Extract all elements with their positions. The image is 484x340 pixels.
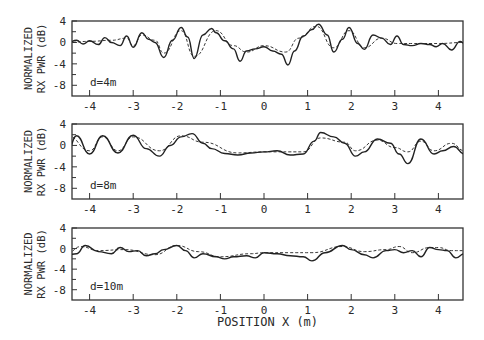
x-tick-label: 4 bbox=[435, 100, 442, 113]
x-tick-label: 1 bbox=[304, 100, 311, 113]
y-tick-label: -8 bbox=[53, 79, 66, 92]
y-tick-label: 4 bbox=[59, 15, 66, 28]
panel-annotation: d=10m bbox=[90, 280, 123, 293]
x-tick-label: -2 bbox=[170, 304, 183, 317]
measured-line bbox=[68, 245, 465, 260]
x-tick-label: 4 bbox=[435, 203, 442, 216]
y-tick-label: -4 bbox=[53, 161, 67, 174]
y-axis-label: RX PWR (dB) bbox=[35, 229, 47, 299]
panel-1: 40-4-8-4-3-2-101234d=4mNORMALIZEDRX PWR … bbox=[22, 15, 465, 113]
panel-annotation: d=4m bbox=[90, 76, 117, 89]
panel-annotation: d=8m bbox=[90, 179, 117, 192]
x-axis-label: POSITION X (m) bbox=[217, 315, 318, 329]
x-tick-label: 3 bbox=[391, 100, 398, 113]
y-tick-label: 4 bbox=[59, 118, 66, 131]
panel-3: 40-4-8-4-3-2-101234d=10mNORMALIZEDRX PWR… bbox=[22, 222, 465, 317]
y-tick-label: -8 bbox=[53, 284, 66, 297]
y-tick-label: 0 bbox=[59, 243, 66, 256]
y-tick-label: -4 bbox=[53, 58, 67, 71]
x-tick-label: -1 bbox=[214, 203, 227, 216]
x-tick-label: -4 bbox=[83, 304, 97, 317]
x-tick-label: 2 bbox=[348, 203, 355, 216]
predicted-line bbox=[68, 136, 465, 153]
x-tick-label: 4 bbox=[435, 304, 442, 317]
y-axis-label: NORMALIZED bbox=[22, 27, 34, 90]
panel-2: 40-4-8-4-3-2-101234d=8mNORMALIZEDRX PWR … bbox=[22, 118, 465, 216]
x-tick-label: 2 bbox=[348, 100, 355, 113]
predicted-line bbox=[68, 26, 465, 56]
x-tick-label: -2 bbox=[170, 203, 183, 216]
x-tick-label: 3 bbox=[391, 203, 398, 216]
y-tick-label: -8 bbox=[53, 182, 66, 195]
x-tick-label: -2 bbox=[170, 100, 183, 113]
y-axis-label: NORMALIZED bbox=[22, 232, 34, 295]
x-tick-label: 1 bbox=[304, 203, 311, 216]
y-tick-label: 0 bbox=[59, 36, 66, 49]
y-tick-label: 4 bbox=[59, 222, 66, 235]
x-tick-label: -4 bbox=[83, 203, 97, 216]
y-axis-label: NORMALIZED bbox=[22, 130, 34, 193]
y-axis-label: RX PWR (dB) bbox=[35, 24, 47, 94]
x-tick-label: 3 bbox=[391, 304, 398, 317]
measured-line bbox=[68, 133, 465, 164]
measured-line bbox=[68, 24, 465, 65]
x-tick-label: -3 bbox=[127, 304, 140, 317]
y-tick-label: -4 bbox=[53, 263, 67, 276]
y-axis-label: RX PWR (dB) bbox=[35, 127, 47, 197]
plot-frame bbox=[72, 21, 463, 96]
plot-frame bbox=[72, 228, 463, 300]
x-tick-label: -4 bbox=[83, 100, 97, 113]
x-tick-label: 0 bbox=[261, 100, 268, 113]
x-tick-label: 2 bbox=[348, 304, 355, 317]
y-tick-label: 0 bbox=[59, 139, 66, 152]
x-tick-label: -3 bbox=[127, 100, 140, 113]
chart-figure: 40-4-8-4-3-2-101234d=4mNORMALIZEDRX PWR … bbox=[0, 0, 484, 340]
x-tick-label: -1 bbox=[214, 100, 227, 113]
x-tick-label: -3 bbox=[127, 203, 140, 216]
x-tick-label: 0 bbox=[261, 203, 268, 216]
